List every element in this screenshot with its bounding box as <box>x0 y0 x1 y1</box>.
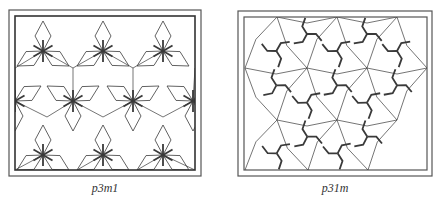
p31m-tiling-pattern <box>0 0 439 201</box>
figure-p31m: p31m <box>0 0 439 201</box>
caption-p31m: p31m <box>275 181 395 196</box>
